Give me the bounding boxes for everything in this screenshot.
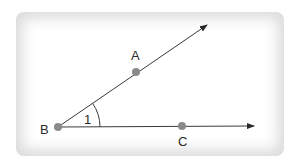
angle-diagram: A B C 1	[0, 0, 298, 166]
point-b	[54, 123, 62, 131]
label-b: B	[40, 122, 49, 137]
point-c	[178, 122, 186, 130]
label-c: C	[178, 134, 187, 149]
point-a	[132, 68, 140, 76]
angle-label-1: 1	[84, 112, 91, 127]
label-a: A	[131, 48, 140, 63]
angle-arc	[93, 103, 100, 127]
ray-ba	[58, 25, 207, 127]
